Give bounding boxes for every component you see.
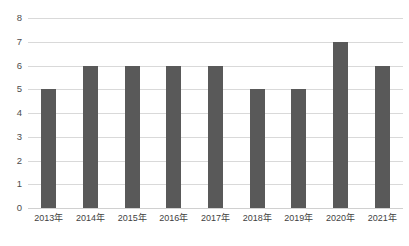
bar (166, 66, 181, 209)
x-axis: 2013年2014年2015年2016年2017年2018年2019年2020年… (28, 211, 403, 233)
x-axis-category-label: 2021年 (368, 214, 397, 223)
bar (291, 89, 306, 208)
bar (208, 66, 223, 209)
x-axis-category-label: 2013年 (34, 214, 63, 223)
y-axis-tick-label: 6 (17, 61, 22, 71)
bar (250, 89, 265, 208)
x-axis-category-label: 2018年 (243, 214, 272, 223)
bar (83, 66, 98, 209)
x-axis-category-label: 2020年 (326, 214, 355, 223)
bar (125, 66, 140, 209)
y-axis-tick-label: 7 (17, 37, 22, 47)
plot-area (28, 18, 403, 208)
y-axis-tick-label: 3 (17, 132, 22, 142)
y-axis: 876543210 (0, 0, 28, 246)
y-axis-tick-label: 0 (17, 203, 22, 213)
gridline (28, 208, 403, 209)
x-axis-category-label: 2019年 (284, 214, 313, 223)
x-axis-category-label: 2017年 (201, 214, 230, 223)
y-axis-tick-label: 8 (17, 13, 22, 23)
x-axis-category-label: 2016年 (159, 214, 188, 223)
y-axis-tick-label: 2 (17, 156, 22, 166)
bar (41, 89, 56, 208)
y-axis-tick-label: 4 (17, 108, 22, 118)
bar-chart: 876543210 2013年2014年2015年2016年2017年2018年… (0, 0, 409, 246)
bar (375, 66, 390, 209)
x-axis-category-label: 2014年 (76, 214, 105, 223)
y-axis-tick-label: 5 (17, 85, 22, 95)
x-axis-category-label: 2015年 (118, 214, 147, 223)
bar (333, 42, 348, 208)
y-axis-tick-label: 1 (17, 180, 22, 190)
bars-group (28, 18, 403, 208)
